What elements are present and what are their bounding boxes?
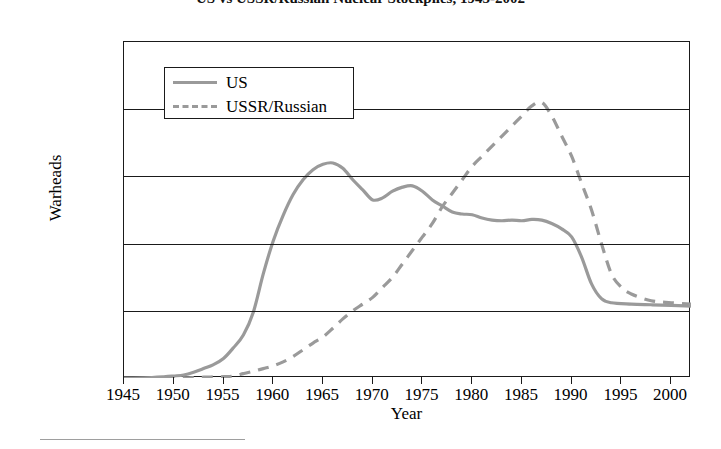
y-axis: Warheads 010,00020,00030,00040,00050,000 [0,0,123,449]
gridline-30000 [124,176,689,177]
legend-item-ussr: USSR/Russian [173,95,353,119]
xtick-1975 [421,377,422,384]
xtick-1990 [571,377,572,384]
gridline-20000 [124,244,689,245]
footer-rule [40,439,245,440]
xtick-1985 [521,377,522,384]
gridline-10000 [124,311,689,312]
legend-swatch-dashed-icon [173,101,217,113]
legend-label-ussr: USSR/Russian [226,98,327,116]
xtick-1960 [272,377,273,384]
xtick-2000 [670,377,671,384]
xtick-1955 [223,377,224,384]
xtick-1980 [471,377,472,384]
legend-item-us: US [173,71,353,95]
xtick-1970 [372,377,373,384]
nuclear-stockpile-line-chart: US vs USSR/Russian Nuclear Stockpiles, 1… [0,0,721,449]
legend-label-us: US [226,74,248,92]
xtick-1950 [173,377,174,384]
chart-legend: US USSR/Russian [164,67,354,119]
x-axis-title: Year [123,404,690,424]
y-axis-title: Warheads [46,128,66,248]
xtick-1945 [123,377,124,384]
xtick-label-2000: 2000 [640,385,700,404]
xtick-1965 [322,377,323,384]
legend-swatch-solid-icon [173,77,217,89]
xtick-1995 [620,377,621,384]
